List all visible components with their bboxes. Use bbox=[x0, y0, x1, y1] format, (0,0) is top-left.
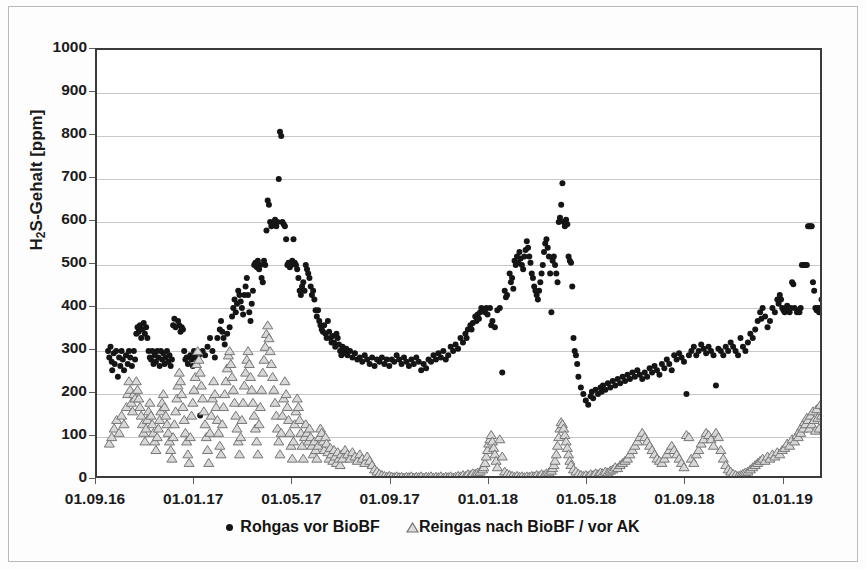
chart-legend: Rohgas vor BioBF Reingas nach BioBF / vo… bbox=[0, 518, 866, 536]
series-rohgas bbox=[105, 129, 822, 419]
x-tick-mark bbox=[783, 478, 784, 484]
legend-label-reingas: Reingas nach BioBF / vor AK bbox=[419, 518, 640, 536]
plot-area bbox=[95, 48, 822, 478]
x-tick-mark bbox=[291, 478, 292, 484]
y-tick-label: 0 bbox=[31, 468, 87, 486]
y-tick-label: 600 bbox=[31, 210, 87, 228]
y-axis-title-sub: 2 bbox=[34, 231, 48, 238]
x-tick-mark bbox=[488, 478, 489, 484]
x-tick-label: 01.01.17 bbox=[163, 490, 223, 508]
chart-figure: H2S-Gehalt [ppm] 01002003004005006007008… bbox=[0, 0, 866, 569]
x-tick-mark bbox=[95, 478, 96, 484]
legend-label-rohgas: Rohgas vor BioBF bbox=[240, 518, 380, 536]
y-tick-label: 1000 bbox=[31, 38, 87, 56]
x-tick-mark bbox=[193, 478, 194, 484]
y-axis-title-pre: H bbox=[27, 238, 46, 250]
y-tick-label: 300 bbox=[31, 339, 87, 357]
x-tick-mark bbox=[390, 478, 391, 484]
y-tick-label: 500 bbox=[31, 253, 87, 271]
y-tick-label: 200 bbox=[31, 382, 87, 400]
circle-marker-icon bbox=[226, 524, 233, 531]
data-series-layer bbox=[97, 50, 822, 478]
x-tick-label: 01.05.17 bbox=[261, 490, 321, 508]
x-tick-label: 01.01.18 bbox=[458, 490, 518, 508]
x-tick-label: 01.01.19 bbox=[753, 490, 813, 508]
legend-item-rohgas: Rohgas vor BioBF bbox=[226, 518, 380, 536]
triangle-marker-icon bbox=[400, 522, 412, 532]
plot-wrapper: H2S-Gehalt [ppm] 01002003004005006007008… bbox=[0, 0, 866, 569]
x-tick-label: 01.09.16 bbox=[65, 490, 125, 508]
x-tick-mark bbox=[586, 478, 587, 484]
x-tick-label: 01.05.18 bbox=[556, 490, 616, 508]
y-tick-label: 100 bbox=[31, 425, 87, 443]
x-tick-label: 01.09.18 bbox=[654, 490, 714, 508]
y-tick-label: 900 bbox=[31, 81, 87, 99]
y-tick-label: 700 bbox=[31, 167, 87, 185]
y-tick-label: 800 bbox=[31, 124, 87, 142]
legend-item-reingas: Reingas nach BioBF / vor AK bbox=[400, 518, 640, 536]
x-tick-label: 01.09.17 bbox=[360, 490, 420, 508]
y-tick-label: 400 bbox=[31, 296, 87, 314]
x-tick-mark bbox=[684, 478, 685, 484]
